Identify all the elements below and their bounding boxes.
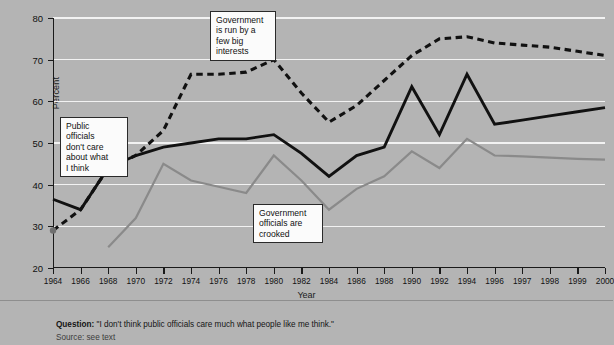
x-tick-mark <box>274 268 275 274</box>
x-tick-mark <box>136 268 137 274</box>
x-tick-mark <box>191 268 192 274</box>
question-text: "I don't think public officials care muc… <box>97 320 335 329</box>
footer-divider <box>0 300 613 301</box>
annotation-line: crooked <box>259 229 318 239</box>
x-tick-mark <box>357 268 358 274</box>
x-tick-label: 1982 <box>292 276 310 286</box>
x-axis-labels: 1964196619681970197219741976197819801982… <box>0 276 613 290</box>
x-tick-label: 1988 <box>375 276 393 286</box>
annotation-line: interests <box>216 46 271 56</box>
annotation-line: I think <box>66 163 123 173</box>
x-tick-label: 1974 <box>182 276 200 286</box>
x-axis-title: Year <box>0 290 613 300</box>
series-start-marker <box>50 227 56 233</box>
series-line <box>53 74 605 209</box>
annotation-line: about what <box>66 152 123 162</box>
x-tick-label: 1976 <box>209 276 227 286</box>
x-tick-mark <box>384 268 385 274</box>
x-tick-mark <box>550 268 551 274</box>
x-tick-label: 1972 <box>154 276 172 286</box>
annotation-public-officials: Publicofficialsdon't careabout what I th… <box>60 117 128 177</box>
x-tick-mark <box>467 268 468 274</box>
annotation-line: Public <box>66 121 123 131</box>
x-tick-label: 1984 <box>320 276 338 286</box>
x-tick-label: 1997 <box>513 276 531 286</box>
annotation-line: is run by a <box>216 25 271 35</box>
question-label: Question: <box>56 320 94 329</box>
annotation-line: officials are <box>259 218 318 228</box>
x-tick-label: 1999 <box>568 276 586 286</box>
x-tick-mark <box>329 268 330 274</box>
annotation-crooked: Governmentofficials arecrooked <box>253 204 323 243</box>
x-tick-mark <box>81 268 82 274</box>
x-tick-label: 1966 <box>71 276 89 286</box>
annotation-line: officials <box>66 131 123 141</box>
x-tick-label: 1986 <box>347 276 365 286</box>
x-tick-label: 1964 <box>44 276 62 286</box>
x-tick-mark <box>53 268 54 274</box>
x-tick-mark <box>605 268 606 274</box>
x-tick-mark <box>522 268 523 274</box>
x-tick-label: 1998 <box>541 276 559 286</box>
annotation-line: few big <box>216 36 271 46</box>
x-tick-label: 1992 <box>430 276 448 286</box>
x-tick-label: 1970 <box>127 276 145 286</box>
x-tick-label: 1968 <box>99 276 117 286</box>
x-tick-label: 1990 <box>403 276 421 286</box>
x-tick-label: 1978 <box>237 276 255 286</box>
x-tick-label: 1994 <box>458 276 476 286</box>
annotation-line: Government <box>216 15 271 25</box>
plot-area: Percent 20304050607080 19641966196819701… <box>0 0 613 290</box>
x-tick-mark <box>163 268 164 274</box>
x-tick-mark <box>108 268 109 274</box>
x-tick-mark <box>577 268 578 274</box>
x-tick-label: 1996 <box>485 276 503 286</box>
annotation-line: Government <box>259 208 318 218</box>
footer: Question: "I don't think public official… <box>0 300 613 345</box>
x-tick-mark <box>301 268 302 274</box>
x-tick-label: 2000 <box>596 276 614 286</box>
x-tick-mark <box>495 268 496 274</box>
x-tick-mark <box>219 268 220 274</box>
x-tick-mark <box>246 268 247 274</box>
x-tick-label: 1980 <box>265 276 283 286</box>
x-tick-mark <box>412 268 413 274</box>
series-line <box>53 37 605 231</box>
source-note: Source: see text <box>56 333 115 342</box>
annotation-big-interests: Governmentis run by afew biginterests <box>210 11 276 61</box>
x-tick-mark <box>439 268 440 274</box>
x-axis-ticks <box>0 268 613 275</box>
annotation-line: don't care <box>66 142 123 152</box>
question-note: Question: "I don't think public official… <box>56 320 334 329</box>
